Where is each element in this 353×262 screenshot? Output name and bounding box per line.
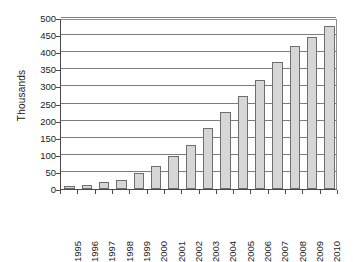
bar (203, 128, 213, 189)
x-axis-tick-label: 2002 (194, 228, 204, 262)
x-axis-tick-label: 2008 (298, 228, 308, 262)
x-axis-tick-label: 2009 (315, 228, 325, 262)
y-axis-tick-labels: 050100150200250300350400450500 (30, 19, 56, 190)
bar (324, 26, 334, 189)
bar (255, 80, 265, 189)
y-axis-tick-label: 150 (30, 134, 56, 144)
x-axis-tick-label: 1995 (73, 228, 83, 262)
bar (134, 173, 144, 189)
x-axis-tick-label: 2005 (246, 228, 256, 262)
y-axis-tick-label: 250 (30, 100, 56, 110)
y-axis-tick-label: 400 (30, 48, 56, 58)
gridline (61, 17, 336, 18)
x-axis-tick-mark (337, 190, 338, 194)
y-axis-tick-label: 200 (30, 117, 56, 127)
x-axis-tick-label: 2010 (332, 228, 342, 262)
y-axis-title: Thousands (14, 0, 30, 190)
x-axis-tick-label: 2007 (280, 228, 290, 262)
bar (116, 180, 126, 189)
x-axis-tick-label: 2006 (263, 228, 273, 262)
y-axis-tick-label: 350 (30, 66, 56, 76)
bars-layer (61, 20, 336, 189)
x-axis-tick-labels: 1995199619971998199920002001200220032004… (60, 194, 337, 242)
bar (64, 186, 74, 189)
bar (168, 156, 178, 189)
bar (290, 46, 300, 189)
y-axis-tick-label: 50 (30, 168, 56, 178)
x-axis-tick-label: 1999 (142, 228, 152, 262)
bar (272, 62, 282, 189)
bar (238, 96, 248, 189)
plot-area (60, 19, 337, 190)
bar (307, 37, 317, 189)
bar (82, 185, 92, 189)
x-axis-tick-label: 1998 (125, 228, 135, 262)
y-axis-tick-label: 0 (30, 185, 56, 195)
x-axis-tick-label: 1997 (107, 228, 117, 262)
bar (99, 182, 109, 189)
y-axis-tick-label: 500 (30, 14, 56, 24)
y-axis-title-text: Thousands (17, 69, 28, 120)
x-axis-tick-label: 2003 (211, 228, 221, 262)
x-axis-tick-label: 2001 (177, 228, 187, 262)
x-axis-tick-label: 2004 (228, 228, 238, 262)
bar (151, 166, 161, 189)
y-axis-tick-label: 100 (30, 151, 56, 161)
x-axis-tick-label: 2000 (159, 228, 169, 262)
bar (220, 112, 230, 189)
bar (186, 145, 196, 189)
y-axis-tick-label: 450 (30, 31, 56, 41)
y-axis-tick-label: 300 (30, 83, 56, 93)
x-axis-tick-label: 1996 (90, 228, 100, 262)
